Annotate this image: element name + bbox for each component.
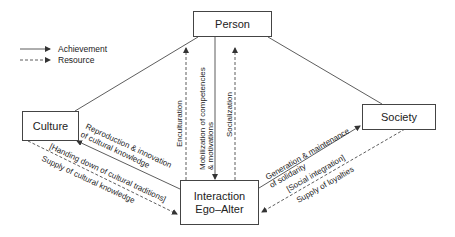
legend-resource-label: Resource — [58, 55, 94, 65]
label-enculturation: Enculturation — [175, 100, 184, 147]
edge-person-society — [268, 37, 382, 104]
node-interaction-label-1: Interaction — [194, 190, 245, 203]
legend-achievement-label: Achievement — [58, 44, 107, 54]
node-culture: Culture — [22, 111, 79, 141]
legend: Achievement Resource — [56, 43, 107, 65]
node-interaction-label-2: Ego–Alter — [195, 203, 243, 216]
node-person-label: Person — [215, 18, 250, 31]
node-interaction: Interaction Ego–Alter — [180, 180, 259, 225]
node-person: Person — [193, 11, 272, 37]
label-socialization: Socialization — [225, 92, 234, 137]
node-culture-label: Culture — [33, 120, 68, 133]
node-society: Society — [362, 104, 436, 130]
node-society-label: Society — [381, 111, 417, 124]
label-mobilization-2: & motivations — [206, 122, 215, 170]
